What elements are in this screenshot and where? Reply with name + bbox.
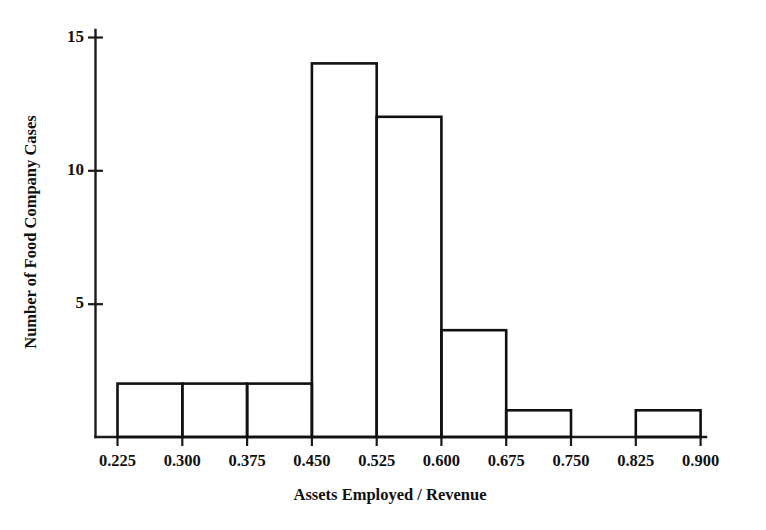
bar-bin-2 [247, 384, 312, 437]
y-tick-label-5: 5 [76, 293, 85, 312]
x-tick-label-4: 0.525 [358, 451, 395, 470]
x-axis-tick-labels: 0.225 0.300 0.375 0.450 0.525 0.600 0.67… [99, 451, 719, 470]
histogram-bars [118, 63, 701, 437]
x-tick-label-5: 0.600 [423, 451, 460, 470]
x-tick-label-0: 0.225 [99, 451, 136, 470]
bar-bin-1 [182, 384, 247, 437]
x-tick-label-8: 0.825 [617, 451, 654, 470]
x-tick-label-9: 0.900 [682, 451, 719, 470]
x-tick-label-7: 0.750 [552, 451, 589, 470]
bar-bin-8 [636, 410, 701, 437]
y-axis-tick-labels: 15 10 5 [67, 27, 84, 312]
x-tick-label-3: 0.450 [293, 451, 330, 470]
bar-bin-0 [118, 384, 183, 437]
x-axis-title: Assets Employed / Revenue [294, 485, 487, 504]
x-axis-ticks [118, 437, 701, 446]
bar-bin-4 [377, 117, 442, 437]
bar-bin-5 [441, 330, 506, 437]
y-axis-title: Number of Food Company Cases [21, 115, 40, 349]
bar-bin-3 [312, 63, 377, 437]
x-tick-label-1: 0.300 [164, 451, 201, 470]
bar-bin-6 [506, 410, 571, 437]
y-tick-label-15: 15 [67, 27, 84, 46]
chart-canvas: 15 10 5 [0, 0, 766, 530]
x-tick-label-2: 0.375 [229, 451, 266, 470]
x-tick-label-6: 0.675 [488, 451, 525, 470]
histogram-figure: 15 10 5 [0, 0, 766, 530]
y-tick-label-10: 10 [67, 160, 84, 179]
